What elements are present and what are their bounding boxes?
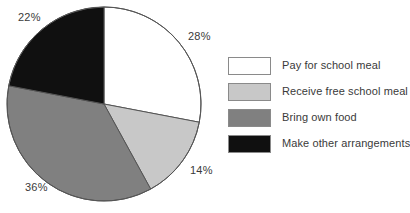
legend-label-receive-free-school-meal: Receive free school meal (282, 86, 408, 97)
pie-slice-pay-for-school-meal[interactable] (104, 7, 201, 122)
legend-swatch-icon-bring-own-food (228, 109, 271, 127)
pie-label-pay-for-school-meal: 28% (188, 31, 211, 42)
legend-swatch-icon-receive-free-school-meal (228, 83, 271, 101)
pie-chart-plot-area: 22% 28% 14% 36% (0, 0, 224, 213)
legend-swatch-icon-make-other-arrangements (228, 135, 271, 153)
legend-item-receive-free-school-meal[interactable]: Receive free school meal (228, 79, 406, 104)
legend-label-make-other-arrangements: Make other arrangements (282, 138, 410, 149)
legend-label-bring-own-food: Bring own food (282, 112, 357, 123)
legend-item-pay-for-school-meal[interactable]: Pay for school meal (228, 53, 406, 78)
pie-label-receive-free-school-meal: 14% (190, 165, 213, 176)
legend-swatch-icon-pay-for-school-meal (228, 57, 271, 75)
legend-label-pay-for-school-meal: Pay for school meal (282, 60, 381, 71)
legend-item-make-other-arrangements[interactable]: Make other arrangements (228, 131, 406, 156)
pie-label-bring-own-food: 36% (25, 182, 48, 193)
chart-legend: Pay for school meal Receive free school … (228, 53, 406, 157)
legend-item-bring-own-food[interactable]: Bring own food (228, 105, 406, 130)
pie-label-make-other-arrangements: 22% (18, 12, 41, 23)
